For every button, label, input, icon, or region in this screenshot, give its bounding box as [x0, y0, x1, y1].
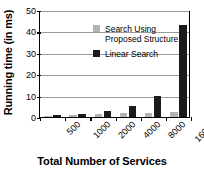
bar — [129, 106, 137, 117]
bar — [78, 114, 86, 117]
black-swatch-icon — [93, 50, 100, 57]
y-axis-tick-labels: 01020304050 — [17, 11, 36, 118]
light-gray-swatch-icon — [93, 25, 100, 32]
x-tick-mark — [191, 117, 192, 121]
legend-label-proposed-structure: Search Using Proposed Structure — [105, 24, 178, 44]
bar — [44, 116, 52, 117]
x-axis-title: Total Number of Services — [0, 155, 204, 167]
bar — [104, 111, 112, 117]
bar-chart-figure: Running time (in ms) 01020304050 Search … — [0, 0, 204, 179]
x-tick-label: 4000 — [142, 120, 163, 141]
y-tick-label: 30 — [17, 49, 36, 58]
bar — [170, 112, 178, 117]
y-tick-label: 50 — [17, 7, 36, 16]
bar-group — [40, 11, 65, 117]
y-tick-label: 20 — [17, 71, 36, 80]
legend-entry-proposed-structure: Search Using Proposed Structure — [93, 24, 203, 44]
y-tick-label: 0 — [17, 114, 36, 123]
bar — [69, 115, 77, 117]
x-tick-label: 2000 — [117, 120, 138, 141]
x-tick-label: 500 — [65, 120, 82, 137]
bar — [154, 96, 162, 117]
legend-label-linear-search: Linear Search — [105, 49, 158, 59]
chart-legend: Search Using Proposed Structure Linear S… — [93, 24, 203, 61]
x-tick-label: 8000 — [167, 120, 188, 141]
bar — [95, 114, 103, 117]
bar-group — [65, 11, 90, 117]
x-axis-tick-labels: 500100020004000800016000 — [39, 118, 190, 148]
y-tick-label: 10 — [17, 92, 36, 101]
y-tick-label: 40 — [17, 28, 36, 37]
x-tick-label: 16000 — [194, 120, 204, 144]
bar — [120, 113, 128, 117]
y-axis-title-text: Running time (in ms) — [4, 9, 15, 114]
y-axis-title: Running time (in ms) — [0, 0, 18, 124]
x-tick-label: 1000 — [92, 120, 113, 141]
bar — [145, 113, 153, 117]
plot-area: Search Using Proposed Structure Linear S… — [39, 11, 190, 118]
legend-entry-linear-search: Linear Search — [93, 49, 203, 59]
bar — [53, 115, 61, 117]
